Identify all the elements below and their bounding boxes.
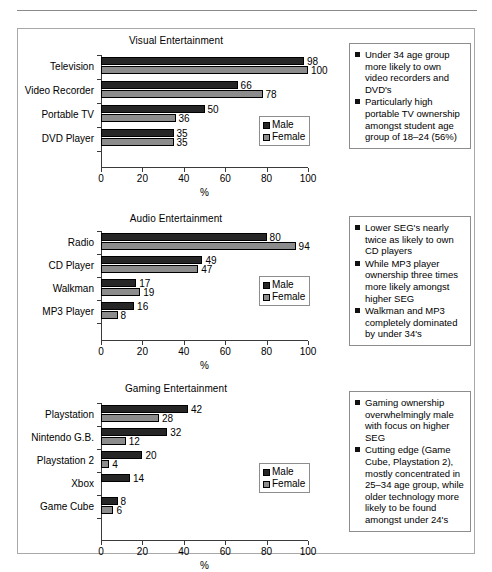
x-tick-label: 40 <box>178 173 189 184</box>
chart-panel-audio-entertainment: Audio Entertainment Radio 80 94 <box>18 209 476 377</box>
category-label: DVD Player <box>42 133 94 144</box>
x-tick-label: 60 <box>220 546 231 557</box>
bar-value-female: 47 <box>201 264 212 275</box>
note-item: Walkman and MP3 completely dominated by … <box>355 305 464 340</box>
note-text: Gaming ownership overwhelmingly male wit… <box>365 397 454 443</box>
x-tick-label: 0 <box>98 546 104 557</box>
x-axis-gaming <box>101 540 308 541</box>
bar-row-female: 100 <box>101 66 308 74</box>
chart-panel-gaming-entertainment: Gaming Entertainment Playstation 42 28 <box>18 379 476 553</box>
bar-value-female: 4 <box>112 459 118 470</box>
bar-value-female: 36 <box>179 113 190 124</box>
category-label: Xbox <box>71 478 94 489</box>
bullet-square-icon <box>355 400 360 405</box>
bar-group: Radio 80 94 <box>101 233 308 251</box>
x-tick-label: 80 <box>261 346 272 357</box>
bar-female <box>101 288 140 296</box>
x-axis-caption: % <box>200 360 209 371</box>
legend-label-female: Female <box>272 478 305 490</box>
note-item: Gaming ownership overwhelmingly male wit… <box>355 397 464 443</box>
category-label: Nintendo G.B. <box>31 432 94 443</box>
legend-swatch-female-icon <box>263 481 270 488</box>
x-tick-label: 60 <box>220 346 231 357</box>
legend-item-male: Male <box>263 119 305 131</box>
legend-item-female: Female <box>263 131 305 143</box>
x-tick-label: 0 <box>98 346 104 357</box>
category-label: MP3 Player <box>42 306 94 317</box>
legend-label-male: Male <box>272 466 294 478</box>
legend-item-female: Female <box>263 291 305 303</box>
bar-group: Playstation 42 28 <box>101 405 308 423</box>
bar-value-female: 19 <box>143 287 154 298</box>
bar-female <box>101 242 296 250</box>
x-tick-label: 100 <box>300 546 317 557</box>
bar-row-female: 28 <box>101 414 308 422</box>
bar-female <box>101 114 176 122</box>
legend-swatch-male-icon <box>263 282 270 289</box>
notes-box-gaming: Gaming ownership overwhelmingly male wit… <box>349 391 471 532</box>
bar-male <box>101 233 267 241</box>
bar-row-male: 20 <box>101 451 308 459</box>
note-text: Lower SEG's nearly twice as likely to ow… <box>365 222 454 256</box>
bar-male <box>101 57 304 65</box>
bar-female <box>101 414 159 422</box>
bar-value-female: 8 <box>121 310 127 321</box>
bullet-square-icon <box>355 447 360 452</box>
category-label: Playstation <box>45 409 94 420</box>
bullet-square-icon <box>355 52 360 57</box>
bar-value-male: 66 <box>241 80 252 91</box>
bar-value-female: 100 <box>311 65 328 76</box>
note-text: Under 34 age group more likely to own vi… <box>365 49 450 95</box>
note-text: While MP3 player ownership three times m… <box>365 258 458 304</box>
bar-row-female: 6 <box>101 506 308 514</box>
bar-row-female: 78 <box>101 90 308 98</box>
bar-row-male: 50 <box>101 105 308 113</box>
bar-row-male: 80 <box>101 233 308 241</box>
x-axis-caption: % <box>200 187 209 198</box>
bar-group: Television 98 100 <box>101 57 308 75</box>
legend-swatch-male-icon <box>263 469 270 476</box>
category-label: Radio <box>68 237 94 248</box>
legend-swatch-female-icon <box>263 134 270 141</box>
x-tick-label: 100 <box>300 346 317 357</box>
bar-group: Game Cube 8 6 <box>101 497 308 515</box>
bar-group: Nintendo G.B. 32 12 <box>101 428 308 446</box>
category-label: Video Recorder <box>25 85 94 96</box>
notes-box-visual: Under 34 age group more likely to own vi… <box>349 43 471 149</box>
legend-label-female: Female <box>272 291 305 303</box>
bar-female <box>101 460 109 468</box>
bar-female <box>101 66 308 74</box>
bar-group: Video Recorder 66 78 <box>101 81 308 99</box>
category-label: Walkman <box>53 283 94 294</box>
x-tick-label: 20 <box>137 346 148 357</box>
x-axis-visual <box>101 167 308 168</box>
note-item: While MP3 player ownership three times m… <box>355 258 464 304</box>
note-item: Particularly high portable TV ownership … <box>355 96 464 142</box>
bar-female <box>101 138 174 146</box>
legend-item-male: Male <box>263 279 305 291</box>
y-axis-gaming <box>101 403 102 541</box>
bar-male <box>101 497 118 505</box>
bullet-square-icon <box>355 261 360 266</box>
bar-male <box>101 405 188 413</box>
bar-value-female: 35 <box>177 137 188 148</box>
x-tick-label: 100 <box>300 173 317 184</box>
bar-female <box>101 90 263 98</box>
bar-male <box>101 81 238 89</box>
bar-value-male: 20 <box>145 450 156 461</box>
legend-swatch-male-icon <box>263 122 270 129</box>
chart-panel-visual-entertainment: Visual Entertainment Television 98 100 <box>18 31 476 207</box>
bar-row-female: 94 <box>101 242 308 250</box>
note-text: Particularly high portable TV ownership … <box>365 96 460 142</box>
note-text: Cutting edge (Game Cube, Playstation 2),… <box>365 444 464 525</box>
x-tick-label: 80 <box>261 173 272 184</box>
x-tick-label: 20 <box>137 546 148 557</box>
x-axis-audio <box>101 340 308 341</box>
bar-value-male: 32 <box>170 427 181 438</box>
x-tick-label: 40 <box>178 546 189 557</box>
bar-row-male: 98 <box>101 57 308 65</box>
notes-box-audio: Lower SEG's nearly twice as likely to ow… <box>349 216 471 346</box>
bar-female <box>101 265 198 273</box>
legend-label-male: Male <box>272 119 294 131</box>
bar-group: CD Player 49 47 <box>101 256 308 274</box>
